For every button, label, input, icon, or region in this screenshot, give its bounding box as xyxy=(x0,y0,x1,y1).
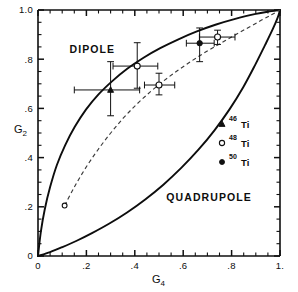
dashed-curve-endpoint-marker xyxy=(62,203,67,208)
y-tick-label: .4 xyxy=(24,152,33,163)
region-label-dipole: DIPOLE xyxy=(69,43,115,55)
x-tick-label: .2 xyxy=(82,260,91,271)
scatter-plot: 0.2.4.6.81. 0.2.4.6.81.0 DIPOLE QUADRUPO… xyxy=(0,0,298,292)
legend: 46Ti48Ti50Ti xyxy=(219,115,249,168)
legend-element-symbol: Ti xyxy=(241,138,249,149)
data-point-46Ti xyxy=(74,62,139,116)
y-tick-label: .6 xyxy=(24,103,33,114)
y-tick-label: 0 xyxy=(27,250,33,261)
y-axis-title: G2 xyxy=(14,123,28,138)
chart-figure: 0.2.4.6.81. 0.2.4.6.81.0 DIPOLE QUADRUPO… xyxy=(0,0,298,292)
region-labels: DIPOLE QUADRUPOLE xyxy=(69,43,251,203)
dashed-curve-start-circle xyxy=(62,203,67,208)
x-tick-label: 1. xyxy=(276,260,285,271)
marker-filled-circle xyxy=(197,41,202,46)
data-point-group xyxy=(74,28,235,116)
y-tick-label: .2 xyxy=(24,201,33,212)
x-axis-tick-labels: 0.2.4.6.81. xyxy=(35,260,284,271)
data-point-48Ti xyxy=(199,30,235,44)
marker-open-circle xyxy=(156,82,162,88)
x-tick-label: .6 xyxy=(179,260,188,271)
legend-element-symbol: Ti xyxy=(241,119,249,130)
x-tick-label: .4 xyxy=(131,260,140,271)
legend-element-symbol: Ti xyxy=(241,157,249,168)
x-axis-title-subscript: 4 xyxy=(161,279,166,288)
legend-marker-open-circle xyxy=(219,140,224,145)
y-tick-label: 1.0 xyxy=(19,4,33,15)
marker-open-circle xyxy=(215,34,221,40)
legend-mass-number: 46 xyxy=(229,115,237,122)
marker-open-circle xyxy=(134,63,140,69)
region-label-quadrupole: QUADRUPOLE xyxy=(166,191,252,203)
y-axis-title-subscript: 2 xyxy=(23,129,28,138)
legend-mass-number: 50 xyxy=(229,153,237,160)
x-tick-label: .8 xyxy=(227,260,236,271)
x-axis-title: G4 xyxy=(152,273,166,288)
data-point-48Ti xyxy=(113,43,158,89)
x-tick-label: 0 xyxy=(35,260,41,271)
legend-mass-number: 48 xyxy=(229,134,237,141)
legend-marker-filled-circle xyxy=(220,160,225,165)
y-tick-label: .8 xyxy=(24,54,33,65)
